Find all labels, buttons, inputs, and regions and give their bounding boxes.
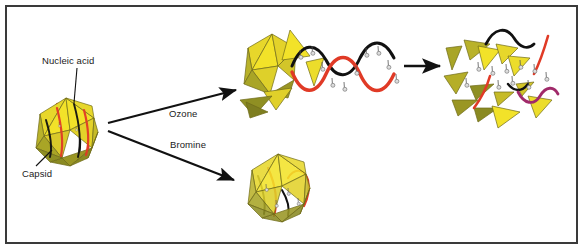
bromine-capsid-shell	[248, 154, 310, 222]
ozone-label: Ozone	[169, 108, 198, 119]
bromine-label: Bromine	[170, 139, 206, 150]
capsid-label: Capsid	[22, 168, 52, 179]
figure-artwork	[0, 0, 585, 251]
leader-nucleic-acid	[74, 68, 77, 103]
fragment-adducts	[465, 60, 549, 89]
ozone-treated-virus	[240, 30, 399, 118]
intact-virus-particle	[36, 98, 98, 166]
bromine-treated-virus	[248, 154, 310, 222]
nucleic-acid-label: Nucleic acid	[42, 55, 94, 66]
degraded-virus-fragments	[444, 30, 558, 128]
virus-inactivation-figure: Nucleic acid Capsid Ozone Bromine	[0, 0, 585, 251]
